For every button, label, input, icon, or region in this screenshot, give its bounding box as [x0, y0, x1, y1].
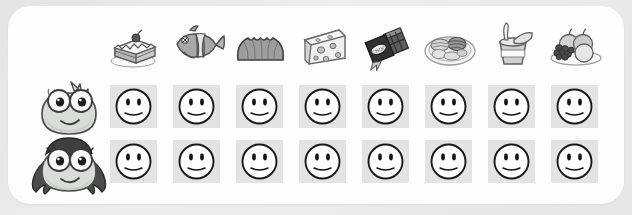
- column-header-fruit: [547, 18, 605, 74]
- bread-loaf-icon: [232, 18, 290, 74]
- fruit-plate-icon: [547, 18, 605, 74]
- rating-cell-girl-chocolate[interactable]: [362, 140, 409, 183]
- rating-cell-boy-bread[interactable]: [236, 85, 283, 128]
- neutral-smiley-icon: [236, 85, 283, 128]
- neutral-smiley-icon: [173, 85, 220, 128]
- neutral-smiley-icon: [488, 140, 535, 183]
- vegetable-dish-icon: [421, 18, 479, 74]
- column-header-cake: [106, 18, 164, 74]
- rating-cell-boy-cake[interactable]: [110, 85, 157, 128]
- neutral-smiley-icon: [299, 140, 346, 183]
- neutral-smiley-icon: [551, 140, 598, 183]
- rating-cell-girl-cheese[interactable]: [299, 140, 346, 183]
- neutral-smiley-icon: [173, 140, 220, 183]
- rating-cell-boy-vegetables[interactable]: [425, 85, 472, 128]
- rating-cell-girl-yogurt[interactable]: [488, 140, 535, 183]
- boy-creature-avatar: [26, 78, 112, 140]
- column-header-yogurt: [484, 18, 542, 74]
- rating-cell-girl-cake[interactable]: [110, 140, 157, 183]
- rating-grid: CHOC: [8, 6, 624, 204]
- neutral-smiley-icon: [488, 85, 535, 128]
- rating-cell-boy-yogurt[interactable]: [488, 85, 535, 128]
- neutral-smiley-icon: [299, 85, 346, 128]
- chocolate-bar-icon: CHOC: [358, 18, 416, 74]
- cheese-wedge-icon: [295, 18, 353, 74]
- food-rating-panel: CHOC: [8, 6, 624, 204]
- row-avatar-girl: [26, 134, 112, 196]
- column-header-cheese: [295, 18, 353, 74]
- neutral-smiley-icon: [425, 140, 472, 183]
- column-header-chocolate: CHOC: [358, 18, 416, 74]
- neutral-smiley-icon: [236, 140, 283, 183]
- rating-cell-girl-vegetables[interactable]: [425, 140, 472, 183]
- rating-cell-boy-fish[interactable]: [173, 85, 220, 128]
- rating-cell-girl-bread[interactable]: [236, 140, 283, 183]
- fish-icon: [169, 18, 227, 74]
- neutral-smiley-icon: [110, 140, 157, 183]
- rating-cell-boy-fruit[interactable]: [551, 85, 598, 128]
- neutral-smiley-icon: [551, 85, 598, 128]
- cake-slice-icon: [106, 18, 164, 74]
- rating-cell-boy-cheese[interactable]: [299, 85, 346, 128]
- rating-cell-boy-chocolate[interactable]: [362, 85, 409, 128]
- yogurt-cup-icon: [484, 18, 542, 74]
- neutral-smiley-icon: [110, 85, 157, 128]
- rating-cell-girl-fruit[interactable]: [551, 140, 598, 183]
- column-header-vegetables: [421, 18, 479, 74]
- neutral-smiley-icon: [425, 85, 472, 128]
- screen-root: CHOC: [0, 0, 632, 215]
- row-avatar-boy: [26, 78, 112, 140]
- neutral-smiley-icon: [362, 140, 409, 183]
- neutral-smiley-icon: [362, 85, 409, 128]
- column-header-bread: [232, 18, 290, 74]
- rating-cell-girl-fish[interactable]: [173, 140, 220, 183]
- girl-creature-avatar: [26, 134, 112, 196]
- column-header-fish: [169, 18, 227, 74]
